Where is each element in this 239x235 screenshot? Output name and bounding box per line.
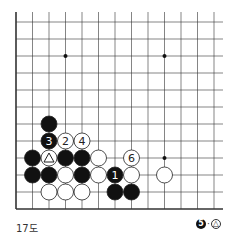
- star-point: [163, 54, 167, 58]
- black-stone: [25, 150, 41, 166]
- separator: ·: [207, 219, 210, 229]
- move-number: 6: [128, 152, 135, 165]
- black-stone: [124, 184, 140, 200]
- go-board: 32461: [0, 0, 239, 215]
- white-stone: [124, 167, 140, 183]
- black-stone: [74, 150, 90, 166]
- white-stone: [41, 184, 57, 200]
- move-note: 5 · △: [196, 219, 221, 229]
- white-stone: [58, 167, 74, 183]
- star-point: [163, 156, 167, 160]
- white-stone: [58, 184, 74, 200]
- move-number: 2: [62, 135, 69, 148]
- black-stone-icon: 5: [196, 219, 206, 229]
- diagram-caption: 17도: [16, 220, 38, 235]
- star-point: [64, 54, 68, 58]
- white-triangle-stone-icon: △: [211, 219, 221, 229]
- black-stone: [107, 184, 123, 200]
- white-stone: [91, 167, 107, 183]
- white-stone: [157, 167, 173, 183]
- black-stone: [74, 167, 90, 183]
- white-stone: [91, 150, 107, 166]
- move-number: 1: [112, 169, 119, 182]
- black-stone: [41, 116, 57, 132]
- move-number: 3: [46, 135, 53, 148]
- black-stone: [41, 167, 57, 183]
- move-number: 4: [79, 135, 86, 148]
- black-stone: [25, 167, 41, 183]
- black-stone: [58, 150, 74, 166]
- white-stone: [74, 184, 90, 200]
